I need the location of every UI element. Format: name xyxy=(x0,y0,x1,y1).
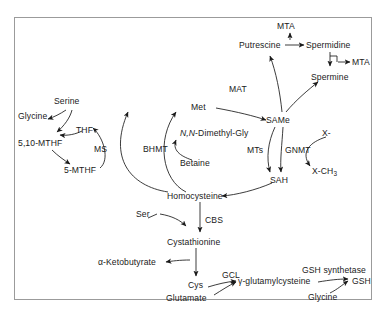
arrow-ggc-to-gsh xyxy=(318,279,348,282)
pathway-diagram-figure: Serine Glycine THF 5,10-MTHF 5-MTHF Met … xyxy=(0,0,390,318)
node-mta-right: MTA xyxy=(352,58,370,67)
node-cys: Cys xyxy=(188,281,203,290)
arrow-same-to-sah-mts xyxy=(268,127,275,172)
node-gsh: GSH xyxy=(352,277,371,286)
arrow-same-to-putrescine-branch xyxy=(270,56,282,112)
node-serine: Serine xyxy=(54,97,79,106)
arrow-met-to-same-mat xyxy=(216,108,266,120)
arrow-same-to-sah-gnmt xyxy=(281,127,283,172)
arrow-510mthf-to-5mthf xyxy=(52,150,70,164)
node-cystathionine: Cystathionine xyxy=(167,238,220,247)
enzyme-mat: MAT xyxy=(229,85,247,94)
enzyme-gnmt: GNMT xyxy=(285,146,311,155)
node-x-methyl: X-CH3 xyxy=(312,167,337,176)
node-putrescine: Putrescine xyxy=(239,41,281,50)
arrow-glutamate-to-ggc-gcl xyxy=(214,282,236,295)
node-5-mthf: 5-MTHF xyxy=(64,166,96,175)
node-sah: SAH xyxy=(270,176,288,185)
arrow-serine-to-glycine xyxy=(48,110,66,119)
node-dimethylgly-italic-prefix: N,N xyxy=(180,128,195,138)
node-glycine-gsh: Glycine xyxy=(308,293,337,302)
arrow-betaine-to-dimethylgly xyxy=(175,140,192,160)
node-x-methyl-main: X-CH xyxy=(312,166,333,176)
node-dimethylgly-suffix: -Dimethyl-Gly xyxy=(195,128,248,138)
node-met: Met xyxy=(191,103,206,112)
node-x-acceptor: X- xyxy=(322,129,331,138)
node-spermidine: Spermidine xyxy=(306,41,350,50)
node-glutamate: Glutamate xyxy=(166,294,207,303)
node-same: SAMe xyxy=(266,116,290,125)
enzyme-mts: MTs xyxy=(247,146,263,155)
arrow-ser-to-cystathionine xyxy=(160,214,186,226)
node-510-mthf: 5,10-MTHF xyxy=(18,139,62,148)
node-mta-top: MTA xyxy=(277,22,295,31)
enzyme-ms: MS xyxy=(94,145,107,154)
node-spermine: Spermine xyxy=(311,73,349,82)
enzyme-gcl: GCL xyxy=(222,271,240,280)
arrow-same-to-spermine-branch xyxy=(286,82,318,112)
arrow-sah-to-homocysteine xyxy=(222,183,272,196)
node-n-n-dimethyl-glycine: N,N-Dimethyl-Gly xyxy=(180,129,248,138)
node-ser: Ser xyxy=(136,210,150,219)
enzyme-bhmt: BHMT xyxy=(143,145,168,154)
arrow-cystathionine-to-alpha-ketobutyrate xyxy=(166,260,190,262)
enzyme-gsh-synthetase: GSH synthetase xyxy=(302,266,366,275)
enzyme-cbs: CBS xyxy=(205,216,223,225)
connector-spermidine-to-mta-right-elbow xyxy=(330,56,337,62)
node-thf: THF xyxy=(76,126,93,135)
node-homocysteine: Homocysteine xyxy=(167,192,223,201)
arrow-serine-to-510mthf xyxy=(57,110,72,132)
node-betaine: Betaine xyxy=(180,159,210,168)
node-x-methyl-subscript: 3 xyxy=(333,170,337,177)
node-gamma-glutamylcysteine: γ-glutamylcysteine xyxy=(238,277,310,286)
node-glycine-folate: Glycine xyxy=(18,112,47,121)
node-alpha-ketobutyrate: α-Ketobutyrate xyxy=(98,258,156,267)
